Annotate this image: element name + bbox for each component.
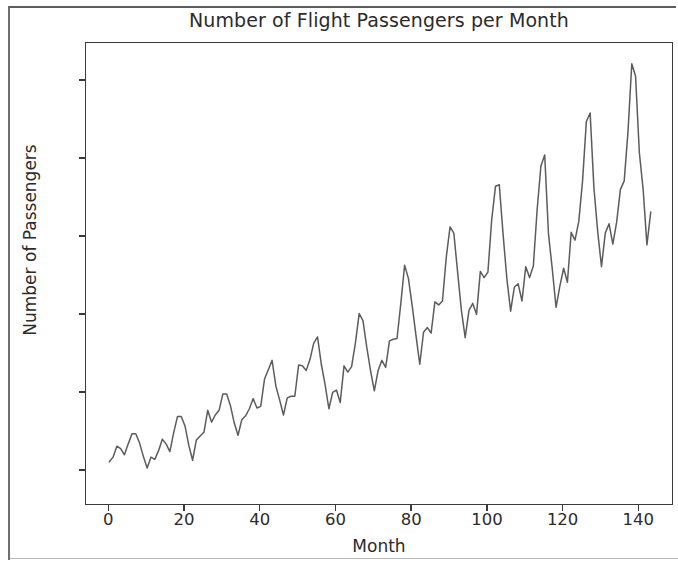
passengers-line [109,64,650,468]
chart-title: Number of Flight Passengers per Month [85,9,673,31]
x-tick-label: 20 [154,512,214,529]
x-tick-label: 60 [305,512,365,529]
x-tick-label: 40 [230,512,290,529]
x-tick-label: 120 [533,512,593,529]
matplotlib-figure: Number of Flight Passengers per Month Nu… [0,0,678,568]
x-tick-label: 100 [457,512,517,529]
x-tick-label: 80 [381,512,441,529]
screenshot-page: Number of Flight Passengers per Month Nu… [0,0,678,568]
y-axis-label: Number of Passengers [20,50,40,430]
line-series-svg [86,43,674,506]
plot-area [85,42,673,505]
x-axis-label: Month [85,536,673,556]
x-tick-label: 140 [608,512,668,529]
x-tick-label: 0 [78,512,138,529]
